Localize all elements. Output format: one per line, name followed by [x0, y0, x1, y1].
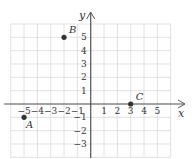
point-marker-icon: [128, 101, 133, 106]
y-axis-label: y: [78, 9, 86, 22]
x-tick-label: 1: [101, 106, 107, 116]
point-label: A: [25, 119, 33, 130]
y-tick-label: 3: [81, 59, 87, 69]
x-tick-label: −2: [57, 106, 70, 116]
x-tick-label: −4: [31, 106, 45, 116]
point-label: C: [136, 91, 144, 102]
point-marker-icon: [61, 35, 66, 40]
y-tick-label: 5: [81, 32, 87, 42]
y-tick-label: 4: [81, 46, 87, 56]
x-tick-label: −5: [17, 106, 31, 116]
y-tick-label: −1: [73, 112, 86, 122]
point-label: B: [68, 24, 76, 35]
coordinate-plane: x y −5−4−3−2−112345 54321−1−2−3 ABC: [0, 0, 194, 159]
x-tick-label: 2: [114, 106, 120, 116]
y-tick-label: −2: [73, 126, 86, 136]
x-tick-label: 3: [128, 106, 134, 116]
x-tick-labels: −5−4−3−2−112345: [17, 106, 160, 116]
y-tick-label: 2: [81, 72, 87, 82]
y-tick-label: −3: [73, 139, 87, 149]
x-axis-label: x: [178, 107, 185, 120]
x-tick-label: −3: [44, 106, 58, 116]
y-tick-label: 1: [81, 86, 87, 96]
x-tick-label: 4: [141, 106, 147, 116]
x-tick-label: 5: [154, 106, 160, 116]
